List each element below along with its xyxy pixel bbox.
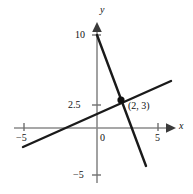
y-tick-label-2point5: 2.5 <box>68 100 81 110</box>
intersection-point-marker <box>117 96 124 103</box>
origin-label: 0 <box>100 133 105 143</box>
y-axis-arrow-icon <box>92 22 102 32</box>
x-tick-label-minus5: −5 <box>16 133 27 143</box>
y-tick-label-10: 10 <box>75 30 85 40</box>
coordinate-plane-svg <box>0 0 193 194</box>
graph-figure: x y −5 5 10 2.5 −5 0 (2, 3) <box>0 0 193 194</box>
intersection-point-label: (2, 3) <box>128 101 150 111</box>
y-axis-label: y <box>100 5 104 15</box>
x-axis-arrow-icon <box>166 123 176 133</box>
x-tick-label-5: 5 <box>155 133 160 143</box>
x-axis-label: x <box>179 121 183 131</box>
y-tick-label-minus5: −5 <box>73 170 84 180</box>
